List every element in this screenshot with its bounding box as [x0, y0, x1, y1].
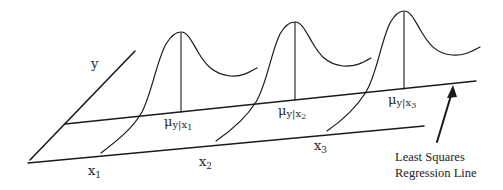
annotation-line-1: Least Squares — [395, 150, 465, 164]
x2-label: x2 — [199, 154, 212, 171]
arrow-head-icon — [447, 85, 457, 98]
mean-label-2: μy|x2 — [278, 103, 306, 121]
y-axis-line — [30, 51, 135, 160]
distribution-curve-2 — [216, 22, 371, 141]
y-axis-label: y — [90, 56, 99, 71]
regression-diagram: y x1 x2 x3 μy|x1 μy|x2 μy|x3 Least Squar… — [0, 0, 503, 190]
x1-label: x1 — [88, 163, 101, 180]
arrow-shaft — [437, 92, 452, 142]
mean-label-1: μy|x1 — [164, 114, 192, 132]
x-axis-line — [28, 126, 424, 163]
mean-label-3: μy|x3 — [388, 92, 416, 110]
annotation-line-2: Regression Line — [395, 166, 477, 180]
distribution-curve-1 — [101, 32, 257, 153]
x3-label: x3 — [314, 138, 327, 155]
